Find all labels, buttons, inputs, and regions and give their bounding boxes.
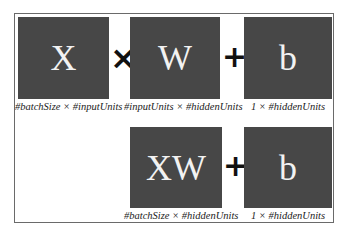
matrix-w-caption: #inputUnits × #hiddenUnits [124,101,234,112]
matrix-x-label: X [51,37,77,79]
matrix-w-label: W [158,37,192,79]
matrix-x-caption: #batchSize × #inputUnits [15,101,125,112]
bias-b-label-row2: b [279,147,297,189]
bias-b-label: b [279,37,297,79]
product-xw-caption: #batchSize × #hiddenUnits [124,210,234,221]
bias-b-box-row2: b [244,127,332,208]
matrix-w-box: W [130,17,220,99]
product-xw-label: XW [146,147,206,189]
bias-b-caption: 1 × #hiddenUnits [244,101,332,112]
matrix-x-box: X [18,17,109,99]
bias-b-box: b [244,17,332,99]
product-xw-box: XW [130,127,222,208]
bias-b-caption-row2: 1 × #hiddenUnits [244,210,332,221]
